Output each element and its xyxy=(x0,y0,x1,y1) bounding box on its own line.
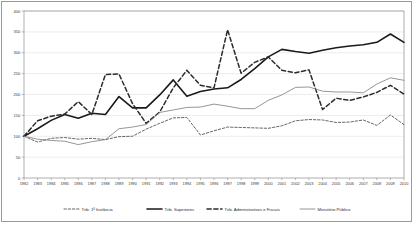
legend-label-2: Trib. Administrativos e Fiscais xyxy=(225,207,280,212)
y-tick-label: 250 xyxy=(14,71,22,76)
x-tick-label: 2005 xyxy=(332,181,341,186)
legend-label-1: Trib. Superiores xyxy=(165,207,195,212)
x-tick-label: 1985 xyxy=(60,181,69,186)
y-tick-label: 300 xyxy=(14,50,22,55)
x-tick-label: 1991 xyxy=(142,181,151,186)
x-tick-label: 1982 xyxy=(20,181,29,186)
x-tick-label: 1989 xyxy=(115,181,124,186)
series-line-0 xyxy=(24,115,404,142)
y-tick-label: 350 xyxy=(14,29,22,34)
x-tick-label: 2010 xyxy=(400,181,409,186)
x-tick-label: 1992 xyxy=(155,181,164,186)
gridlines-group xyxy=(24,11,404,157)
x-tick-label: 1999 xyxy=(250,181,259,186)
y-tick-label: 400 xyxy=(14,9,22,14)
y-tick-label: 150 xyxy=(14,113,22,118)
x-tick-label: 2002 xyxy=(291,181,300,186)
x-tick-label: 1998 xyxy=(237,181,246,186)
y-axis-tick-labels: 050100150200250300350400 xyxy=(14,9,22,181)
y-tick-label: 50 xyxy=(16,155,21,160)
x-tick-label: 1996 xyxy=(210,181,219,186)
x-tick-label: 1988 xyxy=(101,181,110,186)
x-tick-label: 1993 xyxy=(169,181,178,186)
x-tick-label: 2004 xyxy=(318,181,327,186)
x-tick-label: 2000 xyxy=(264,181,273,186)
y-tick-label: 200 xyxy=(14,92,22,97)
data-series-group xyxy=(24,30,404,145)
line-chart: 050100150200250300350400 198219831984198… xyxy=(2,2,411,221)
x-tick-label: 1995 xyxy=(196,181,205,186)
chart-legend: Trib. 1ª InstânciaTrib. SuperioresTrib. … xyxy=(64,207,351,212)
x-tick-label: 2007 xyxy=(359,181,368,186)
chart-frame: 050100150200250300350400 198219831984198… xyxy=(1,1,412,222)
legend-label-0: Trib. 1ª Instância xyxy=(82,207,114,212)
x-tick-label: 1990 xyxy=(128,181,137,186)
x-tick-label: 1984 xyxy=(47,181,56,186)
legend-label-3: Ministério Público xyxy=(318,207,351,212)
y-tick-label: 0 xyxy=(18,176,21,181)
x-tick-label: 1987 xyxy=(88,181,97,186)
x-tick-label: 2008 xyxy=(373,181,382,186)
x-tick-label: 1994 xyxy=(183,181,192,186)
y-tick-label: 100 xyxy=(14,134,22,139)
x-tick-label: 1997 xyxy=(223,181,232,186)
x-tick-label: 2009 xyxy=(386,181,395,186)
x-tick-label: 1983 xyxy=(33,181,42,186)
x-tick-label: 2006 xyxy=(345,181,354,186)
x-tick-label: 2003 xyxy=(305,181,314,186)
x-tick-label: 2001 xyxy=(278,181,287,186)
x-tick-label: 1986 xyxy=(74,181,83,186)
x-axis-tick-labels: 1982198319841985198619871988198919901991… xyxy=(20,178,409,186)
